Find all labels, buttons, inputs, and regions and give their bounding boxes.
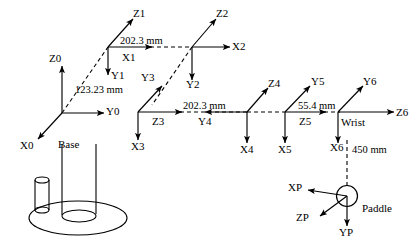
base-pin-top-ellipse <box>35 177 49 183</box>
axis-label-y0: Y0 <box>106 106 119 117</box>
base-structure <box>29 144 127 235</box>
frame-paddle-axes <box>308 190 347 226</box>
dimension-label-123-23mm: 123.23 mm <box>75 85 123 96</box>
axis-y3-arrow <box>138 86 162 112</box>
frame-4-axes <box>205 88 268 143</box>
axis-label-x2: X2 <box>232 41 245 52</box>
annotation-wrist: Wrist <box>341 117 365 128</box>
axis-label-y5: Y5 <box>311 76 324 87</box>
axis-z4-arrow <box>247 88 268 112</box>
axis-label-zp: ZP <box>296 212 309 223</box>
axis-label-xp: XP <box>288 182 302 193</box>
axis-label-z1: Z1 <box>133 8 145 19</box>
axis-x0-arrow <box>38 113 62 139</box>
axis-label-z0: Z0 <box>49 53 61 64</box>
annotation-paddle: Paddle <box>362 203 392 214</box>
axis-label-x0: X0 <box>20 140 33 151</box>
axis-label-y3: Y3 <box>141 72 154 83</box>
dimension-label-202-3mm-link1: 202.3 mm <box>120 36 163 47</box>
axis-xp-arrow <box>308 190 347 196</box>
axis-label-y6: Y6 <box>363 76 376 87</box>
axis-label-y1: Y1 <box>111 70 124 81</box>
link-line-2-3 <box>152 47 192 105</box>
axis-label-z4: Z4 <box>268 78 280 89</box>
dimension-label-55-4mm: 55.4 mm <box>298 101 335 112</box>
axis-label-x6: X6 <box>330 142 343 153</box>
frame-2-axes <box>192 19 230 80</box>
axis-y6-arrow <box>338 86 363 112</box>
axis-label-x4: X4 <box>240 144 253 155</box>
frame-1-axes <box>108 19 152 75</box>
link-line-0-1 <box>62 47 108 113</box>
axis-label-z2: Z2 <box>216 8 228 19</box>
kinematic-diagram: Z0 Y0 X0 Base Z1 X1 Y1 Z2 X2 Y2 Y3 Z3 X3… <box>0 0 420 250</box>
axis-label-x1: X1 <box>122 52 135 63</box>
frame-0-axes <box>38 66 104 139</box>
axis-label-z5: Z5 <box>299 116 311 127</box>
base-pin-bottom-ellipse <box>35 207 49 213</box>
axis-label-z3: Z3 <box>152 116 164 127</box>
axis-label-x5: X5 <box>278 144 291 155</box>
axis-label-z6: Z6 <box>396 107 408 118</box>
axis-z2-arrow <box>192 19 216 47</box>
base-plate-ellipse <box>29 201 127 235</box>
dimension-label-202-3mm-link3: 202.3 mm <box>183 101 226 112</box>
dimension-label-450mm: 450 mm <box>352 145 387 156</box>
axis-label-y2: Y2 <box>186 79 199 90</box>
axis-label-y4: Y4 <box>198 116 211 127</box>
annotation-base: Base <box>58 139 79 150</box>
axis-label-x3: X3 <box>131 141 144 152</box>
axis-label-yp: YP <box>339 227 353 238</box>
base-column-bottom-ellipse <box>62 210 96 222</box>
frame-6-axes <box>338 86 394 143</box>
